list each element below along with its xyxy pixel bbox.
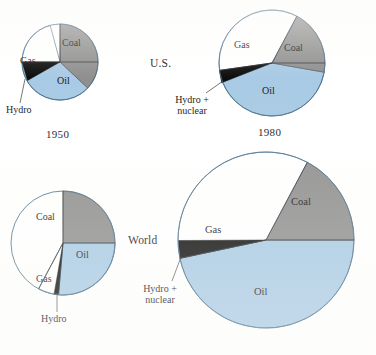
slice-label-oil-us-1980: Oil	[262, 86, 275, 97]
pie-world-1980	[172, 152, 354, 328]
callout-world-1950-hydro: Hydro	[41, 313, 67, 324]
year-label-us-1950: 1950	[46, 129, 69, 141]
callout-leader-us-1950-hydro	[20, 79, 25, 103]
slice-label-oil-world-1950: Oil	[76, 250, 89, 261]
callout-world-1980-hydro-nuclear: Hydro + nuclear	[130, 283, 190, 305]
slice-label-oil-world-1980: Oil	[254, 286, 267, 297]
slice-label-coal-us-1980: Coal	[284, 43, 303, 54]
page-bottom-artifact	[52, 344, 55, 354]
slice-label-coal-world-1980: Coal	[291, 196, 311, 207]
callout-world-1980-line1: Hydro +	[130, 283, 190, 294]
callout-leader-world-1980-hydronuclear	[172, 257, 181, 281]
slice-label-coal-world-1950: Coal	[36, 212, 55, 223]
pie-world-1950	[11, 191, 115, 312]
pie-slice-oil-world-1980	[180, 240, 354, 328]
callout-us-1980-hydro-nuclear: Hydro + nuclear	[163, 94, 221, 116]
callout-us-1980-line2: nuclear	[163, 105, 221, 116]
callout-world-1980-line2: nuclear	[130, 294, 190, 305]
row-label-us: U.S.	[150, 57, 171, 69]
slice-label-coal-us-1950: Coal	[62, 38, 81, 49]
slice-label-gas-world-1950: Gas	[36, 274, 52, 285]
energy-source-pie-chart-figure: Coal Oil Gas Coal Oil Gas Coal Oil Gas C…	[0, 0, 376, 355]
year-label-us-1980: 1980	[258, 127, 281, 139]
slice-label-gas-us-1980: Gas	[234, 40, 250, 51]
slice-label-gas-us-1950: Gas	[20, 56, 36, 67]
row-label-world: World	[128, 234, 157, 246]
callout-us-1980-line1: Hydro +	[163, 94, 221, 105]
callout-leader-us-1980-hydronuclear	[206, 81, 223, 93]
callout-us-1950-hydro: Hydro	[6, 104, 32, 115]
pie-us-1980	[206, 10, 325, 116]
slice-label-gas-world-1980: Gas	[205, 224, 221, 235]
slice-label-oil-us-1950: Oil	[57, 76, 70, 87]
